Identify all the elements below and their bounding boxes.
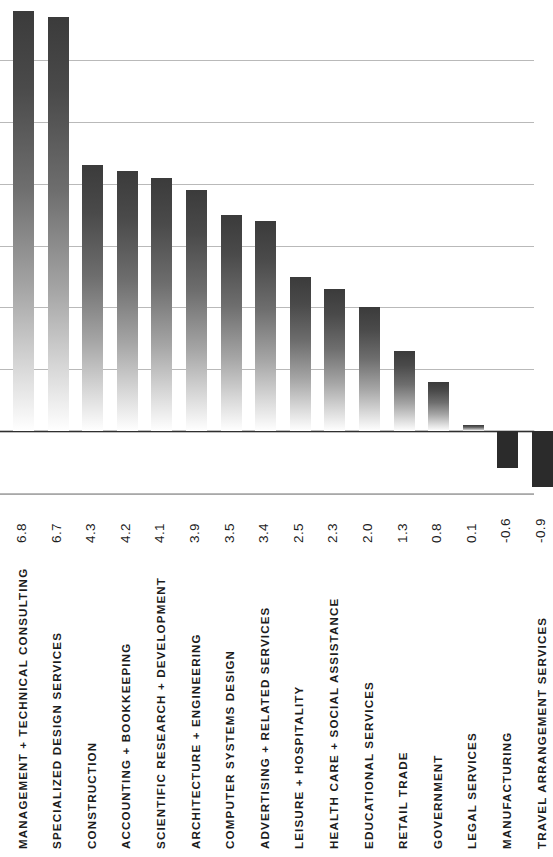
category-label: LEGAL SERVICES xyxy=(465,732,478,849)
category-label: ADVERTISING + RELATED SERVICES xyxy=(258,607,271,849)
value-label: 0.1 xyxy=(464,523,479,543)
value-label: 0.8 xyxy=(429,523,444,543)
category-label: MANUFACTURING xyxy=(500,732,513,849)
plot-area xyxy=(0,0,534,495)
value-label: 4.2 xyxy=(118,523,133,543)
bar[interactable] xyxy=(394,351,415,431)
bar[interactable] xyxy=(82,165,103,431)
category-label: ARCHITECTURE + ENGINEERING xyxy=(189,633,202,849)
value-label: 3.9 xyxy=(187,523,202,543)
category-label: TRAVEL ARRANGEMENT SERVICES xyxy=(535,617,548,849)
category-label: EDUCATIONAL SERVICES xyxy=(362,681,375,849)
value-label-row: 6.86.74.34.24.13.93.53.42.52.32.01.30.80… xyxy=(0,495,534,545)
category-label: ACCOUNTING + BOOKKEEPING xyxy=(119,643,132,849)
value-label: 3.5 xyxy=(222,523,237,543)
category-label: HEALTH CARE + SOCIAL ASSISTANCE xyxy=(327,598,340,849)
bar[interactable] xyxy=(359,307,380,431)
value-label: 3.4 xyxy=(256,523,271,543)
gridline xyxy=(0,60,534,61)
value-label: 2.0 xyxy=(360,523,375,543)
value-label: 4.3 xyxy=(83,523,98,543)
zero-axis-line xyxy=(0,431,534,432)
bar[interactable] xyxy=(497,431,518,468)
category-label: SPECIALIZED DESIGN SERVICES xyxy=(50,632,63,849)
value-label: 4.1 xyxy=(152,523,167,543)
bar[interactable] xyxy=(117,171,138,431)
category-label: GOVERNMENT xyxy=(431,754,444,849)
bar[interactable] xyxy=(151,178,172,431)
category-label: MANAGEMENT + TECHNICAL CONSULTING xyxy=(16,568,29,849)
bar[interactable] xyxy=(221,215,242,431)
category-label: SCIENTIFIC RESEARCH + DEVELOPMENT xyxy=(154,577,167,849)
value-label: 6.7 xyxy=(49,523,64,543)
gridline xyxy=(0,184,534,185)
category-label: CONSTRUCTION xyxy=(85,742,98,849)
bar[interactable] xyxy=(324,289,345,431)
bar[interactable] xyxy=(290,277,311,432)
bar[interactable] xyxy=(48,17,69,431)
category-label: RETAIL TRADE xyxy=(396,751,409,849)
value-label: -0.9 xyxy=(533,518,548,543)
category-label-row: MANAGEMENT + TECHNICAL CONSULTINGSPECIAL… xyxy=(0,545,534,857)
value-label: 1.3 xyxy=(395,523,410,543)
category-label: LEISURE + HOSPITALITY xyxy=(292,686,305,849)
bar[interactable] xyxy=(255,221,276,431)
bar[interactable] xyxy=(13,11,34,431)
value-label: 2.3 xyxy=(325,523,340,543)
value-label: 2.5 xyxy=(291,523,306,543)
bar[interactable] xyxy=(186,190,207,431)
bar[interactable] xyxy=(532,431,553,487)
category-label: COMPUTER SYSTEMS DESIGN xyxy=(223,650,236,849)
gridline xyxy=(0,122,534,123)
bar[interactable] xyxy=(463,425,484,431)
bar[interactable] xyxy=(428,382,449,431)
value-label: -0.6 xyxy=(498,518,513,543)
value-label: 6.8 xyxy=(14,523,29,543)
